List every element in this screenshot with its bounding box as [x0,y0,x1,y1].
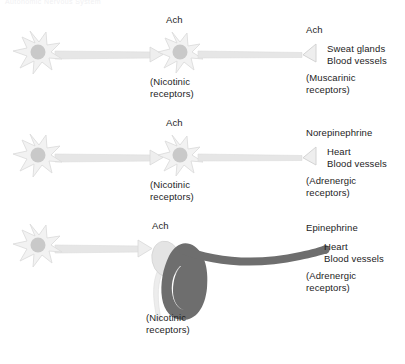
pathway-row-adrenal-medulla: Ach (Nicotinic receptors) Epinephrine He… [0,216,405,364]
postganglionic-transmitter-label-3: Epinephrine [306,222,358,234]
preganglionic-axon-1 [55,51,152,59]
synaptic-terminal-1 [150,47,163,62]
neuron-nucleus-3 [31,148,46,163]
postganglionic-axon-2 [198,154,302,161]
preganglionic-transmitter-label-3: Ach [152,220,169,232]
target-receptor-label-3: (Adrenergic receptors) [306,270,356,293]
ganglion-receptor-label-3: (Nicotinic receptors) [146,312,190,335]
ganglion-receptor-label-1: (Nicotinic receptors) [150,76,194,99]
neuron-nucleus-5 [31,238,46,253]
autonomic-pathway-diagram: Autonomic Nervous System Ach (Nicotinic … [0,0,405,364]
preganglionic-axon-2 [55,154,152,162]
postganglionic-transmitter-label-1: Ach [306,24,323,36]
target-receptor-label-1: (Muscarinic receptors) [306,72,356,95]
neuron-nucleus-1 [31,45,46,60]
target-organs-label-1: Sweat glands Blood vessels [327,43,387,66]
target-receptor-label-2: (Adrenergic receptors) [306,175,356,198]
target-organs-label-3: Heart Blood vessels [324,241,384,264]
figure-top-caption: Autonomic Nervous System [5,0,101,6]
synaptic-terminal-2 [150,150,163,165]
effector-terminal-2 [303,147,316,165]
synaptic-terminal-3 [138,240,152,257]
effector-terminal-1 [303,44,316,62]
preganglionic-transmitter-label-1: Ach [166,14,183,26]
target-organs-label-2: Heart Blood vessels [327,146,387,169]
postganglionic-transmitter-label-2: Norepinephrine [306,127,372,139]
pathway-row-cholinergic: Ach (Nicotinic receptors) Ach Sweat glan… [0,10,405,115]
ganglion-receptor-label-2: (Nicotinic receptors) [150,179,194,202]
preganglionic-transmitter-label-2: Ach [166,117,183,129]
postganglionic-axon-1 [198,51,302,58]
neuron-nucleus-4 [173,148,188,163]
pathway-row-sympathetic: Ach (Nicotinic receptors) Norepinephrine… [0,113,405,218]
neuron-nucleus-2 [173,45,188,60]
preganglionic-axon-3 [55,245,140,253]
